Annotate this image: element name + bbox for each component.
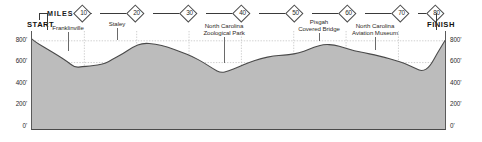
finish-label: FINISH: [427, 20, 455, 29]
plot-area: [31, 31, 446, 130]
poi-label-zoo-line2: Zoological Park: [193, 29, 255, 36]
y-tick-600-left: 600': [1, 57, 27, 64]
poi-label-franklinville: Franklinville: [38, 24, 98, 31]
poi-label-zoo-line1: North Carolina: [193, 22, 255, 29]
y-tick-600-right: 600': [450, 57, 461, 64]
poi-label-aviation-line1: North Carolina: [340, 22, 410, 29]
mile-axis: MILES 10 20 30 40 50 60 70: [0, 0, 482, 22]
mile-marker-label: 50: [287, 9, 304, 16]
y-tick-400-left: 400': [1, 79, 27, 86]
elevation-profile-chart: MILES 10 20 30 40 50 60 70: [0, 0, 482, 142]
y-tick-200-right: 200': [450, 100, 461, 107]
y-tick-400-right: 400': [450, 79, 461, 86]
mile-marker-label: 10: [75, 9, 92, 16]
miles-axis-label: MILES: [47, 9, 73, 18]
mile-marker-label: 20: [128, 9, 145, 16]
y-tick-800-right: 800': [450, 36, 461, 43]
y-tick-0-left: 0': [1, 122, 27, 129]
poi-label-staley: Staley: [100, 20, 134, 27]
poi-stem-zoo: [224, 37, 225, 63]
poi-stem-staley: [117, 28, 118, 40]
mile-marker-label: 30: [181, 9, 198, 16]
mile-marker-20[interactable]: 20: [128, 6, 145, 21]
mile-marker-label: 40: [234, 9, 251, 16]
y-tick-200-left: 200': [1, 100, 27, 107]
y-tick-800-left: 800': [1, 36, 27, 43]
elevation-area-fill: [32, 39, 445, 129]
elevation-area-svg: [32, 31, 445, 129]
poi-label-aviation-line2: Aviation Museum: [340, 29, 410, 36]
poi-stem-aviation: [375, 37, 376, 50]
mile-marker-30[interactable]: 30: [181, 6, 198, 21]
mile-marker-10[interactable]: 10: [75, 6, 92, 21]
poi-stem-franklinville: [68, 32, 69, 51]
finish-stem: [436, 13, 437, 30]
mile-marker-label: 70: [393, 9, 410, 16]
mile-marker-label: 60: [340, 9, 357, 16]
y-tick-0-right: 0': [450, 122, 455, 129]
mile-marker-70[interactable]: 70: [393, 6, 410, 21]
poi-stem-pisgah: [319, 33, 320, 41]
mile-marker-40[interactable]: 40: [234, 6, 251, 21]
